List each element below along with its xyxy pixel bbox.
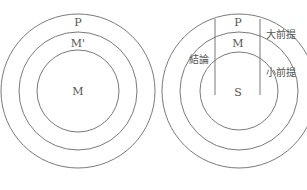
right-outer-label: P [234,16,242,29]
minor-premise-label: 小前提 [266,66,296,78]
left-middle-label: M' [71,37,85,50]
major-premise-label: 大前提 [266,28,296,40]
syllogism-diagram: P M' M P M S 結論 大前提 小前提 [0,0,307,190]
right-diagram: P M S 結論 大前提 小前提 [162,14,307,168]
left-outer-label: P [74,16,82,29]
left-diagram: P M' M [1,14,155,168]
conclusion-label: 結論 [189,53,209,65]
left-inner-label: M [72,85,83,98]
right-middle-label: M [232,37,243,50]
right-inner-label: S [234,86,242,99]
